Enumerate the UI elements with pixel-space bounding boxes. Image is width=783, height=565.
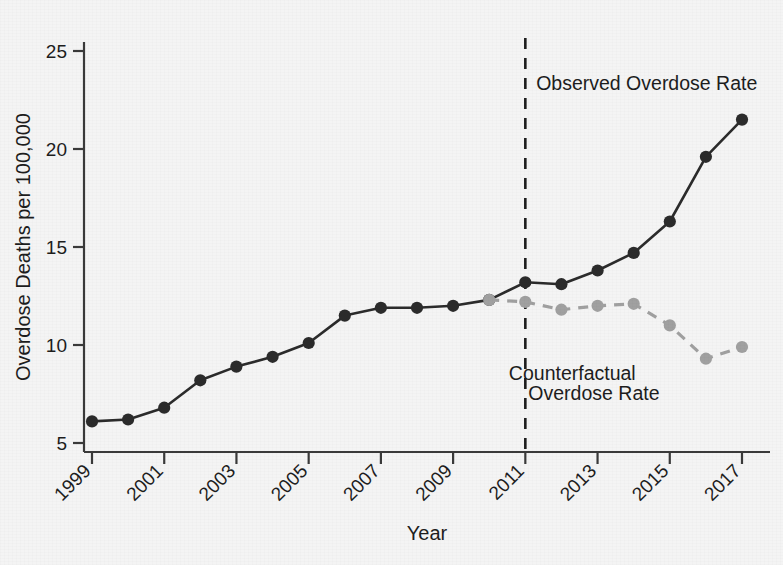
data-point-marker bbox=[628, 247, 640, 259]
data-point-marker bbox=[700, 151, 712, 163]
data-point-marker bbox=[158, 402, 170, 414]
x-tick-label: 1999 bbox=[50, 460, 95, 505]
data-point-marker bbox=[592, 264, 604, 276]
data-point-marker bbox=[411, 302, 423, 314]
data-point-marker bbox=[86, 415, 98, 427]
chart-canvas: 510152025 199920012003200520072009201120… bbox=[0, 0, 783, 565]
y-tick-label: 5 bbox=[56, 433, 67, 454]
data-point-marker bbox=[267, 351, 279, 363]
data-point-marker bbox=[700, 353, 712, 365]
data-point-marker bbox=[736, 341, 748, 353]
annotation-label: Overdose Rate bbox=[528, 382, 659, 404]
x-tick-label: 2003 bbox=[195, 460, 240, 505]
data-point-marker bbox=[230, 361, 242, 373]
data-series-group bbox=[86, 114, 748, 428]
annotation-label: Observed Overdose Rate bbox=[536, 72, 757, 94]
y-tick-label: 15 bbox=[46, 237, 67, 258]
y-tick-label: 10 bbox=[46, 335, 67, 356]
data-point-marker bbox=[628, 298, 640, 310]
data-point-marker bbox=[519, 276, 531, 288]
x-tick-label: 2005 bbox=[267, 460, 312, 505]
x-tick-label: 2009 bbox=[411, 460, 456, 505]
data-point-marker bbox=[664, 215, 676, 227]
y-tick-label: 20 bbox=[46, 139, 67, 160]
overdose-rate-chart-figure: 510152025 199920012003200520072009201120… bbox=[0, 0, 783, 565]
data-point-marker bbox=[122, 413, 134, 425]
data-point-marker bbox=[194, 374, 206, 386]
x-tick-label: 2013 bbox=[556, 460, 601, 505]
data-point-marker bbox=[519, 296, 531, 308]
data-point-marker bbox=[736, 114, 748, 126]
data-point-marker bbox=[592, 300, 604, 312]
data-point-marker bbox=[555, 304, 567, 316]
x-tick-label: 2011 bbox=[484, 460, 528, 504]
x-axis-ticks: 1999200120032005200720092011201320152017 bbox=[50, 452, 745, 505]
x-tick-label: 2017 bbox=[700, 460, 745, 505]
series-line-counterfactual-overdose-rate bbox=[489, 300, 742, 359]
data-point-marker bbox=[483, 294, 495, 306]
series-line-observed-overdose-rate bbox=[92, 120, 742, 422]
data-point-marker bbox=[555, 278, 567, 290]
chart-annotations: Observed Overdose RateCounterfactualOver… bbox=[509, 72, 757, 404]
y-axis-ticks: 510152025 bbox=[46, 41, 84, 454]
x-axis-title: Year bbox=[407, 522, 448, 544]
data-point-marker bbox=[664, 319, 676, 331]
data-point-marker bbox=[447, 300, 459, 312]
x-tick-label: 2001 bbox=[122, 460, 167, 505]
x-tick-label: 2007 bbox=[339, 460, 384, 505]
data-point-marker bbox=[303, 337, 315, 349]
x-tick-label: 2015 bbox=[628, 460, 673, 505]
data-point-marker bbox=[375, 302, 387, 314]
y-tick-label: 25 bbox=[46, 41, 67, 62]
data-point-marker bbox=[339, 310, 351, 322]
y-axis-title: Overdose Deaths per 100,000 bbox=[12, 113, 34, 381]
